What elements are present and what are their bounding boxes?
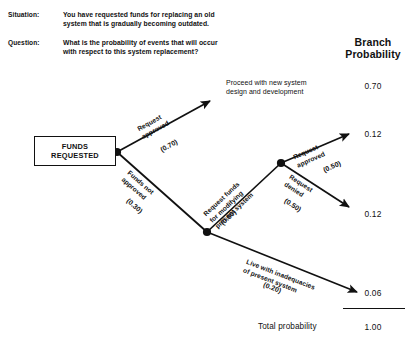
- tree-connector-lines: [0, 0, 416, 352]
- branch-probability-value-2: 0.12: [350, 129, 396, 139]
- total-divider: [343, 308, 405, 309]
- branch-probability-value-3: 0.12: [350, 209, 396, 219]
- node-third-dot: [277, 159, 285, 167]
- branch-probability-value-4: 0.06: [350, 288, 396, 298]
- funds-requested-node: FUNDS REQUESTED: [34, 136, 116, 166]
- node-second-dot: [203, 228, 211, 236]
- funds-requested-label: FUNDS REQUESTED: [51, 142, 99, 161]
- total-probability-value: 1.00: [350, 322, 396, 332]
- branch-probability-value-1: 0.70: [350, 81, 396, 91]
- total-probability-label: Total probability: [258, 322, 317, 331]
- decision-tree-figure: Situation: You have requested funds for …: [0, 0, 416, 352]
- outcome-proceed-new-system: Proceed with new system design and devel…: [226, 78, 307, 96]
